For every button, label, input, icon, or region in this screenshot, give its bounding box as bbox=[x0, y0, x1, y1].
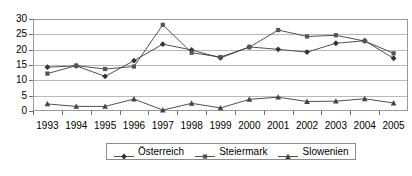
x-tick-label: 1995 bbox=[94, 120, 116, 131]
x-tick-label: 1998 bbox=[181, 120, 203, 131]
legend-label: Steiermark bbox=[219, 146, 267, 157]
x-tick-label: 1996 bbox=[123, 120, 145, 131]
gridline bbox=[34, 65, 407, 66]
x-tick-label: 1997 bbox=[152, 120, 174, 131]
x-tick-mark bbox=[148, 111, 149, 115]
x-tick-mark bbox=[62, 111, 63, 115]
legend-entry[interactable]: Slowenien bbox=[277, 146, 348, 157]
x-tick-mark bbox=[91, 111, 92, 115]
x-tick-mark bbox=[264, 111, 265, 115]
y-tick-mark bbox=[29, 96, 33, 97]
gridline bbox=[34, 96, 407, 97]
y-tick-label: 25 bbox=[16, 29, 27, 39]
x-tick-mark bbox=[321, 111, 322, 115]
x-tick-label: 2005 bbox=[382, 120, 404, 131]
chart-legend: ÖsterreichSteiermarkSlowenien bbox=[106, 143, 356, 160]
y-tick-mark bbox=[29, 34, 33, 35]
x-tick-mark bbox=[350, 111, 351, 115]
x-tick-mark bbox=[293, 111, 294, 115]
legend-marker bbox=[203, 154, 207, 158]
x-tick-label: 1994 bbox=[65, 120, 87, 131]
x-tick-mark bbox=[379, 111, 380, 115]
legend-label: Slowenien bbox=[302, 146, 348, 157]
legend-marker-icon bbox=[194, 147, 216, 156]
gridline bbox=[34, 50, 407, 51]
x-tick-mark bbox=[177, 111, 178, 115]
x-tick-mark bbox=[120, 111, 121, 115]
y-tick-label: 5 bbox=[21, 91, 27, 101]
x-tick-mark bbox=[235, 111, 236, 115]
legend-marker bbox=[121, 154, 127, 160]
x-tick-label: 2001 bbox=[267, 120, 289, 131]
x-tick-mark bbox=[33, 111, 34, 115]
y-tick-label: 20 bbox=[16, 45, 27, 55]
y-tick-label: 0 bbox=[21, 106, 27, 116]
x-tick-label: 2003 bbox=[325, 120, 347, 131]
y-tick-label: 15 bbox=[16, 60, 27, 70]
legend-label: Österreich bbox=[138, 146, 184, 157]
y-tick-mark bbox=[29, 50, 33, 51]
x-tick-label: 2000 bbox=[238, 120, 260, 131]
plot-area bbox=[33, 19, 408, 111]
gridline bbox=[34, 34, 407, 35]
x-tick-label: 2004 bbox=[354, 120, 376, 131]
x-tick-label: 2002 bbox=[296, 120, 318, 131]
line-chart: 051015202530 199319941995199619971998199… bbox=[0, 0, 412, 176]
y-tick-mark bbox=[29, 65, 33, 66]
y-axis: 051015202530 bbox=[0, 0, 30, 176]
x-axis: 1993199419951996199719981999200020012002… bbox=[33, 116, 408, 132]
y-tick-label: 10 bbox=[16, 75, 27, 85]
x-tick-label: 1993 bbox=[36, 120, 58, 131]
y-tick-mark bbox=[29, 80, 33, 81]
legend-entry[interactable]: Österreich bbox=[113, 146, 184, 157]
legend-marker-icon bbox=[113, 147, 135, 156]
y-tick-mark bbox=[29, 19, 33, 20]
y-tick-label: 30 bbox=[16, 14, 27, 24]
x-tick-mark bbox=[206, 111, 207, 115]
legend-marker-icon bbox=[277, 147, 299, 156]
x-tick-label: 1999 bbox=[209, 120, 231, 131]
gridline bbox=[34, 80, 407, 81]
legend-entry[interactable]: Steiermark bbox=[194, 146, 267, 157]
